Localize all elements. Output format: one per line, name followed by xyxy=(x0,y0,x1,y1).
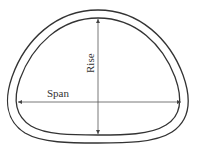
rise-label: Rise xyxy=(84,53,96,73)
tunnel-cross-section-diagram: Span Rise xyxy=(0,0,201,150)
span-label: Span xyxy=(47,87,70,99)
